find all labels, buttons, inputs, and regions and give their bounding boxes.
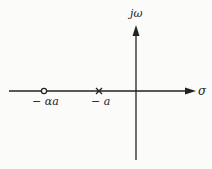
imaginary-axis-label: jω: [127, 7, 142, 20]
real-axis-label: σ: [198, 84, 207, 98]
real-axis-arrow-icon: [185, 88, 196, 95]
imaginary-axis-arrow-icon: [133, 25, 140, 36]
zero-marker-icon: [41, 88, 46, 93]
zero-label: − αa: [32, 95, 59, 108]
s-plane-diagram: jω σ − αa − a: [0, 0, 212, 169]
pole-label: − a: [91, 95, 110, 108]
